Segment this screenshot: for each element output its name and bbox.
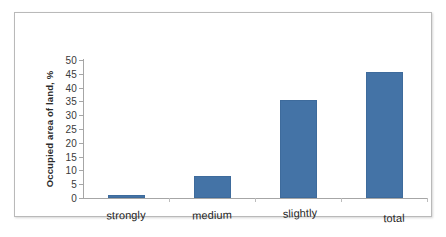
y-axis-title: Occupied area of land, % <box>43 60 57 198</box>
bar-medium <box>194 176 231 198</box>
y-tick-mark <box>79 115 83 116</box>
y-tick-mark <box>79 74 83 75</box>
y-tick-mark <box>79 88 83 89</box>
x-tick-label-total: total <box>383 212 405 224</box>
x-tick-mark <box>427 198 428 202</box>
bar-chart-figure: Occupied area of land, % 504540353025201… <box>0 0 446 237</box>
x-tick-mark <box>341 198 342 202</box>
y-tick-label: 5 <box>71 179 77 190</box>
y-tick-label: 30 <box>65 110 77 121</box>
bar-total <box>366 72 403 198</box>
y-tick-label: 50 <box>65 55 77 66</box>
y-tick-mark <box>79 60 83 61</box>
y-tick-mark <box>79 170 83 171</box>
y-tick-mark <box>79 143 83 144</box>
x-tick-mark <box>169 198 170 202</box>
x-tick-label-strongly: strongly <box>106 209 146 222</box>
plot-area: 50454035302520151050 <box>83 60 427 198</box>
y-tick-label: 45 <box>65 68 77 79</box>
y-tick-label: 25 <box>65 124 77 135</box>
y-tick-label: 0 <box>71 193 77 204</box>
y-tick-label: 15 <box>65 151 77 162</box>
x-tick-label-slightly: slightly <box>283 206 318 219</box>
y-tick-mark <box>79 157 83 158</box>
y-tick-mark <box>79 198 83 199</box>
y-tick-mark <box>79 184 83 185</box>
y-tick-label: 35 <box>65 96 77 107</box>
x-tick-mark <box>255 198 256 202</box>
y-tick-mark <box>79 129 83 130</box>
x-tick-label-medium: medium <box>192 208 232 221</box>
chart-frame: Occupied area of land, % 504540353025201… <box>14 12 432 217</box>
y-tick-label: 10 <box>65 165 77 176</box>
y-tick-label: 40 <box>65 82 77 93</box>
y-tick-mark <box>79 101 83 102</box>
y-tick-label: 20 <box>65 137 77 148</box>
bar-strongly <box>108 195 145 198</box>
bar-slightly <box>280 100 317 198</box>
